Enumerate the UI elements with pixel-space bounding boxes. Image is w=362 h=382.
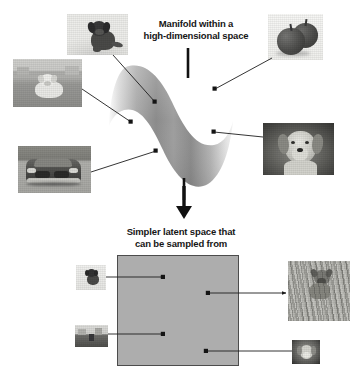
point-top-right	[213, 87, 217, 91]
latent-points	[161, 275, 210, 353]
connector-car	[91, 151, 156, 172]
diagram-overlay	[0, 0, 362, 382]
manifold-surface	[109, 65, 233, 186]
connector-lines-latent	[106, 277, 292, 351]
point-bottom-left	[154, 149, 158, 153]
point-mid-right	[212, 130, 216, 134]
latent-point-3	[161, 332, 165, 336]
connector-golden-retriever	[214, 132, 263, 137]
figure-canvas: Manifold within a high-dimensional space…	[0, 0, 362, 382]
point-mid-left	[129, 120, 133, 124]
latent-point-2	[206, 291, 210, 295]
downward-arrow	[176, 186, 192, 219]
latent-point-4	[204, 349, 208, 353]
connector-apples	[215, 58, 272, 89]
point-top-left	[153, 100, 157, 104]
latent-point-1	[161, 275, 165, 279]
